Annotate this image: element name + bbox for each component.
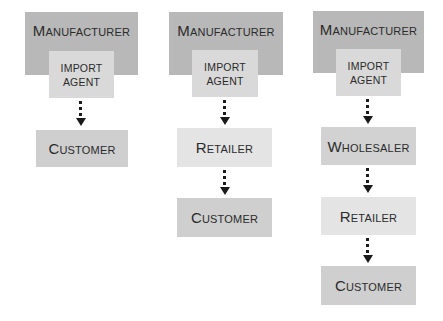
retailer-box: Retailer <box>177 128 272 167</box>
import-agent-box: IMPORT AGENT <box>192 50 258 97</box>
retailer-box: Retailer <box>321 197 416 235</box>
manufacturer-label: Manufacturer <box>177 22 274 39</box>
retailer-label: Retailer <box>340 208 397 225</box>
manufacturer-label: Manufacturer <box>33 22 130 39</box>
customer-box: Customer <box>177 198 272 237</box>
dotted-arrow-down-icon <box>363 238 373 264</box>
wholesaler-box: Wholesaler <box>321 127 416 165</box>
import-agent-label-line1: IMPORT <box>348 59 390 73</box>
import-agent-label-line1: IMPORT <box>61 61 103 75</box>
customer-label: Customer <box>191 209 258 226</box>
dotted-arrow-down-icon <box>363 99 373 125</box>
retailer-label: Retailer <box>196 139 253 156</box>
import-agent-box: IMPORT AGENT <box>336 49 401 96</box>
dotted-arrow-down-icon <box>220 170 230 196</box>
dotted-arrow-down-icon <box>220 100 230 126</box>
import-agent-label-line1: IMPORT <box>204 60 246 74</box>
import-agent-label-line2: AGENT <box>206 74 243 88</box>
customer-box: Customer <box>36 130 128 167</box>
customer-box: Customer <box>321 266 416 305</box>
dotted-arrow-down-icon <box>363 168 373 194</box>
customer-label: Customer <box>335 277 402 294</box>
wholesaler-label: Wholesaler <box>327 138 409 155</box>
dotted-arrow-down-icon <box>76 101 86 127</box>
import-agent-label-line2: AGENT <box>350 73 387 87</box>
import-agent-box: IMPORT AGENT <box>49 51 114 98</box>
customer-label: Customer <box>48 140 115 157</box>
import-agent-label-line2: AGENT <box>63 75 100 89</box>
manufacturer-label: Manufacturer <box>320 21 417 38</box>
